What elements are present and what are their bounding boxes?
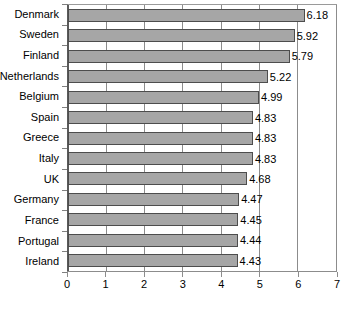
bar-value-label: 4.99 — [261, 92, 282, 103]
category-label: Italy — [0, 148, 63, 169]
bar-value-label: 6.18 — [307, 10, 328, 21]
x-tick-label: 4 — [218, 278, 224, 291]
x-tick — [298, 272, 299, 277]
x-axis-ticks — [67, 272, 337, 277]
x-tick-label: 7 — [334, 278, 340, 291]
category-label: Spain — [0, 107, 63, 128]
x-axis-tick-labels: 01234567 — [67, 278, 337, 294]
category-label: Belgium — [0, 86, 63, 107]
bar: 5.22 — [68, 70, 268, 83]
x-tick-label: 2 — [141, 278, 147, 291]
plot-area: 6.185.925.795.224.994.834.834.834.684.47… — [67, 4, 337, 272]
bar-value-label: 4.83 — [255, 153, 276, 164]
bar-value-label: 4.83 — [255, 112, 276, 123]
bar-value-label: 4.83 — [255, 133, 276, 144]
category-label: Sweden — [0, 25, 63, 46]
bar: 4.47 — [68, 193, 239, 206]
bar-row: 4.83 — [68, 107, 336, 127]
bar-value-label: 4.68 — [249, 173, 270, 184]
x-tick-label: 6 — [295, 278, 301, 291]
x-tick-label: 1 — [103, 278, 109, 291]
category-label: Ireland — [0, 251, 63, 272]
bar-row: 4.99 — [68, 87, 336, 107]
category-label: Finland — [0, 45, 63, 66]
bar: 4.45 — [68, 213, 238, 226]
bar: 4.99 — [68, 91, 259, 104]
bar-row: 5.79 — [68, 46, 336, 66]
bar: 4.83 — [68, 152, 253, 165]
x-tick-label: 5 — [257, 278, 263, 291]
bar: 4.43 — [68, 254, 238, 267]
bar-value-label: 4.43 — [240, 255, 261, 266]
x-tick-label: 0 — [64, 278, 70, 291]
category-label: Greece — [0, 128, 63, 149]
bar-row: 4.45 — [68, 210, 336, 230]
x-tick-label: 3 — [180, 278, 186, 291]
bar: 5.79 — [68, 50, 290, 63]
bar-row: 4.44 — [68, 230, 336, 250]
bar-row: 4.68 — [68, 169, 336, 189]
x-tick — [221, 272, 222, 277]
category-label: Denmark — [0, 4, 63, 25]
category-label: Netherlands — [0, 66, 63, 87]
x-tick — [182, 272, 183, 277]
category-label: Portugal — [0, 231, 63, 252]
x-tick — [337, 272, 338, 277]
x-tick — [105, 272, 106, 277]
bar-value-label: 5.92 — [297, 30, 318, 41]
bar-value-label: 4.47 — [241, 194, 262, 205]
bar-value-label: 4.44 — [240, 235, 261, 246]
bar-row: 5.92 — [68, 25, 336, 45]
category-label: Germany — [0, 189, 63, 210]
bar-row: 4.43 — [68, 251, 336, 271]
bar-chart: DenmarkSwedenFinlandNetherlandsBelgiumSp… — [0, 0, 354, 315]
category-label: UK — [0, 169, 63, 190]
bar-row: 4.47 — [68, 189, 336, 209]
category-axis-labels: DenmarkSwedenFinlandNetherlandsBelgiumSp… — [0, 4, 63, 272]
bar-series: 6.185.925.795.224.994.834.834.834.684.47… — [68, 5, 336, 271]
category-label: France — [0, 210, 63, 231]
x-tick — [259, 272, 260, 277]
bar-row: 4.83 — [68, 128, 336, 148]
bar-value-label: 5.22 — [270, 71, 291, 82]
clipped-bottom-text — [0, 306, 354, 315]
bar-value-label: 5.79 — [292, 51, 313, 62]
bar: 4.83 — [68, 111, 253, 124]
bar-value-label: 4.45 — [240, 214, 261, 225]
bar-row: 4.83 — [68, 148, 336, 168]
bar-row: 6.18 — [68, 5, 336, 25]
bar: 4.83 — [68, 132, 253, 145]
bar: 6.18 — [68, 9, 305, 22]
bar: 5.92 — [68, 29, 295, 42]
bar-row: 5.22 — [68, 66, 336, 86]
bar: 4.68 — [68, 172, 247, 185]
bar: 4.44 — [68, 234, 238, 247]
x-tick — [67, 272, 68, 277]
x-tick — [144, 272, 145, 277]
